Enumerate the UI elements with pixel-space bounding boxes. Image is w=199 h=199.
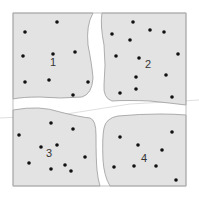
region-3 bbox=[13, 108, 100, 186]
point-marker bbox=[69, 169, 73, 173]
point-marker bbox=[47, 78, 51, 82]
point-marker bbox=[39, 145, 43, 149]
point-marker bbox=[49, 121, 53, 125]
point-marker bbox=[137, 56, 141, 60]
point-marker bbox=[134, 87, 138, 91]
region-label: 4 bbox=[141, 152, 147, 164]
point-marker bbox=[131, 20, 135, 24]
region-label: 1 bbox=[50, 56, 56, 68]
region-2 bbox=[101, 13, 186, 105]
region-label: 2 bbox=[145, 58, 151, 70]
point-marker bbox=[164, 73, 168, 77]
point-marker bbox=[176, 52, 180, 56]
point-marker bbox=[21, 54, 25, 58]
point-marker bbox=[55, 143, 59, 147]
point-marker bbox=[128, 38, 132, 42]
point-marker bbox=[114, 54, 118, 58]
point-marker bbox=[162, 30, 166, 34]
point-marker bbox=[73, 50, 77, 54]
point-marker bbox=[148, 28, 152, 32]
point-marker bbox=[27, 161, 31, 165]
point-marker bbox=[110, 32, 114, 36]
cracked-plate-diagram: 1234 bbox=[0, 0, 199, 199]
point-marker bbox=[170, 130, 174, 134]
point-marker bbox=[174, 178, 178, 182]
point-marker bbox=[154, 164, 158, 168]
point-marker bbox=[132, 164, 136, 168]
point-marker bbox=[134, 75, 138, 79]
point-marker bbox=[112, 165, 116, 169]
point-marker bbox=[136, 143, 140, 147]
point-marker bbox=[55, 20, 59, 24]
point-marker bbox=[71, 127, 75, 131]
region-4 bbox=[103, 114, 186, 186]
point-marker bbox=[49, 167, 53, 171]
point-marker bbox=[83, 155, 87, 159]
point-marker bbox=[23, 80, 27, 84]
point-marker bbox=[170, 95, 174, 99]
region-label: 3 bbox=[46, 147, 52, 159]
point-marker bbox=[23, 30, 27, 34]
point-marker bbox=[63, 163, 67, 167]
point-marker bbox=[118, 91, 122, 95]
point-marker bbox=[160, 148, 164, 152]
point-marker bbox=[86, 80, 90, 84]
point-marker bbox=[118, 135, 122, 139]
point-marker bbox=[17, 133, 21, 137]
point-marker bbox=[71, 93, 75, 97]
